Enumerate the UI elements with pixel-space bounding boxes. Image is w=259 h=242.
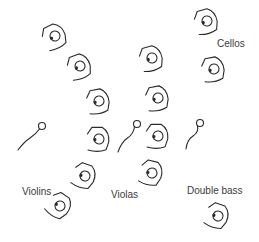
seat-double-bass (202, 200, 232, 232)
cellos-label: Cellos (217, 38, 245, 49)
seating-diagram: Cellos Violins Violas Double bass (0, 0, 259, 242)
seat-cellos (193, 7, 219, 35)
seat-cellos (201, 56, 225, 82)
seat-violins (69, 160, 99, 192)
seat-violas (145, 123, 169, 149)
violas-label: Violas (111, 189, 138, 200)
seat-violas (145, 85, 169, 111)
bow-icon (186, 120, 204, 150)
seat-violins (86, 126, 110, 152)
seating-diagram-canvas (0, 0, 259, 242)
seat-violins (86, 88, 110, 114)
bow-icon (18, 123, 46, 151)
seat-violas (136, 158, 165, 189)
seat-violins (40, 21, 69, 52)
double-bass-label: Double bass (187, 185, 243, 196)
bow-icon (118, 121, 141, 153)
violins-label: Violins (22, 186, 51, 197)
seat-violas (138, 44, 164, 72)
seat-violins (65, 52, 93, 82)
